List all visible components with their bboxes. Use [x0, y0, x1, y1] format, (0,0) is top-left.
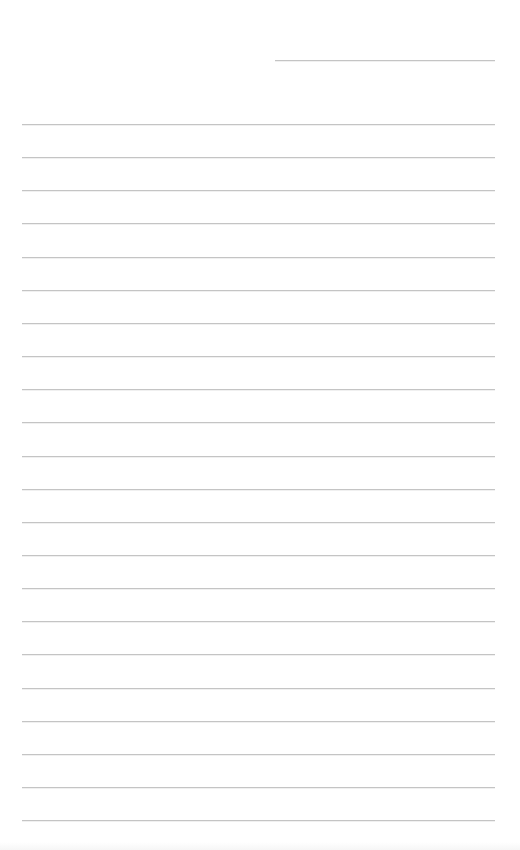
writing-line — [22, 721, 495, 722]
writing-line — [22, 754, 495, 755]
writing-line — [22, 654, 495, 655]
page-bottom-edge — [0, 842, 520, 850]
writing-line — [22, 124, 495, 125]
writing-line — [22, 422, 495, 423]
writing-line — [22, 323, 495, 324]
writing-line — [22, 588, 495, 589]
writing-line — [22, 290, 495, 291]
writing-line — [22, 356, 495, 357]
writing-line — [22, 820, 495, 821]
writing-line — [22, 489, 495, 490]
writing-line — [22, 456, 495, 457]
writing-line — [22, 257, 495, 258]
writing-line — [22, 522, 495, 523]
lined-page — [0, 0, 520, 850]
writing-line — [22, 555, 495, 556]
writing-line — [22, 223, 495, 224]
writing-line — [22, 157, 495, 158]
writing-line — [22, 787, 495, 788]
writing-line — [22, 389, 495, 390]
writing-line — [22, 190, 495, 191]
header-line — [275, 60, 495, 61]
writing-line — [22, 621, 495, 622]
writing-line — [22, 688, 495, 689]
